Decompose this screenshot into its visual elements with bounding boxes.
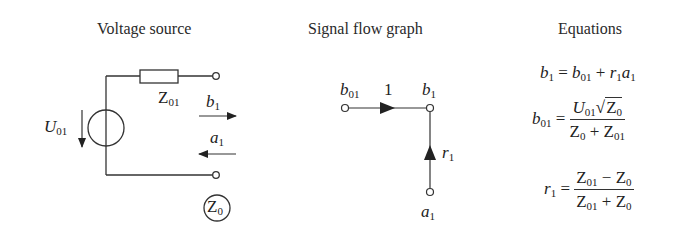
terminal-bottom: [213, 172, 220, 179]
impedance-resistor: [140, 70, 178, 83]
fraction-r1: Z01 − Z0 Z01 + Z0: [574, 168, 633, 212]
node-b1: [427, 105, 434, 112]
sfg-label-a1: a1: [421, 202, 435, 222]
sfg-label-gain: 1: [384, 80, 393, 100]
signal-flow-graph: [342, 105, 434, 196]
terminal-top: [213, 73, 220, 80]
sfg-label-b01: b01: [340, 80, 360, 100]
label-source-voltage: U01: [44, 117, 67, 137]
reflection-branch-arrow-icon: [424, 145, 436, 160]
label-wave-in: a1: [210, 128, 224, 148]
fraction-b01: U01√Z0 Z0 + Z01: [570, 98, 625, 142]
label-wave-out: b1: [206, 92, 220, 112]
label-impedance: Z01: [158, 88, 179, 108]
sfg-label-r1: r1: [442, 143, 454, 163]
node-b01: [342, 105, 349, 112]
node-a1: [427, 189, 434, 196]
sfg-label-b1: b1: [422, 80, 436, 100]
equation-r1: r1 = Z01 − Z0 Z01 + Z0: [544, 168, 634, 212]
equation-b01: b01 = U01√Z0 Z0 + Z01: [532, 98, 625, 142]
direct-branch-arrow-icon: [380, 102, 395, 114]
equation-b1: b1 = b01 + r1a1: [540, 63, 636, 83]
label-reference-impedance: Z0: [207, 197, 223, 217]
